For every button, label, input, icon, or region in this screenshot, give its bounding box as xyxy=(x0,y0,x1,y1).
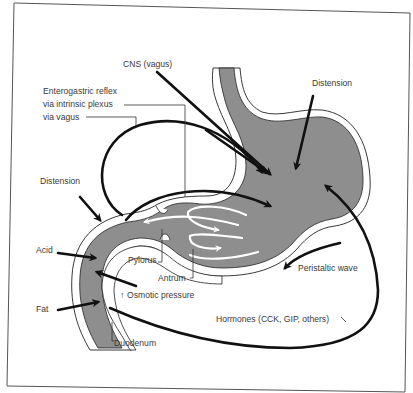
label-antrum: Antrum xyxy=(158,273,186,283)
gastric-emptying-diagram: CNS (vagus) Enterogastric reflex via int… xyxy=(0,0,413,393)
distension-duodenum-arrow xyxy=(80,197,100,220)
label-hormones: Hormones (CCK, GIP, others) xyxy=(216,314,329,324)
label-cns-vagus: CNS (vagus) xyxy=(123,59,172,69)
label-enterogastric-reflex: Enterogastric reflex xyxy=(43,86,118,96)
label-distension-stomach: Distension xyxy=(312,78,352,88)
label-osmotic-pressure: Osmotic pressure xyxy=(127,290,195,300)
label-distension-duodenum: Distension xyxy=(40,176,80,186)
label-peristaltic-wave: Peristaltic wave xyxy=(298,263,358,273)
label-via-intrinsic-plexus: via intrinsic plexus xyxy=(43,99,113,109)
label-osmotic-arrow: ↑ xyxy=(120,290,124,300)
label-acid: Acid xyxy=(36,245,53,255)
label-duodenum: Duodenum xyxy=(114,338,156,348)
label-pylorus: Pylorus xyxy=(128,255,157,265)
label-via-vagus: via vagus xyxy=(43,112,79,122)
label-fat: Fat xyxy=(36,304,49,314)
